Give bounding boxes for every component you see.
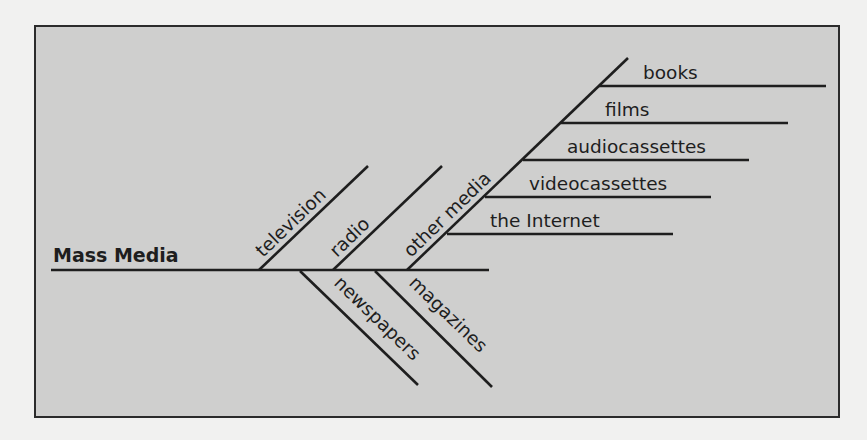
branch-line-television	[259, 166, 368, 270]
subbranch-label-the-internet: the Internet	[490, 210, 600, 231]
branch-label-television: television	[251, 184, 330, 261]
branch-line-radio	[333, 166, 442, 270]
fishbone-diagram: Mass Media television radio other media …	[0, 0, 867, 440]
subbranch-label-books: books	[643, 62, 698, 83]
branch-line-other-media	[407, 58, 628, 270]
root-label: Mass Media	[53, 244, 179, 266]
subbranch-label-videocassettes: videocassettes	[529, 173, 667, 194]
branch-label-other-media: other media	[399, 167, 495, 260]
subbranch-label-films: films	[605, 99, 649, 120]
subbranch-label-audiocassettes: audiocassettes	[567, 136, 706, 157]
